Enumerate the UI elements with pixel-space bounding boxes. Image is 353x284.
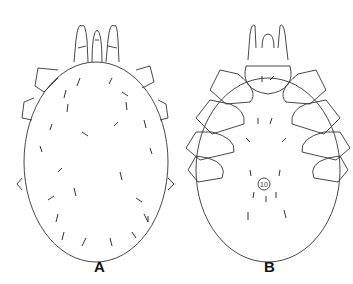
figure-illustration: 10 [0, 0, 353, 284]
panel-label-a: A [94, 258, 105, 275]
panel-b-drawing: 10 [186, 25, 350, 262]
svg-text:10: 10 [260, 181, 268, 188]
panel-a-drawing [17, 25, 174, 262]
panel-label-b: B [264, 258, 275, 275]
